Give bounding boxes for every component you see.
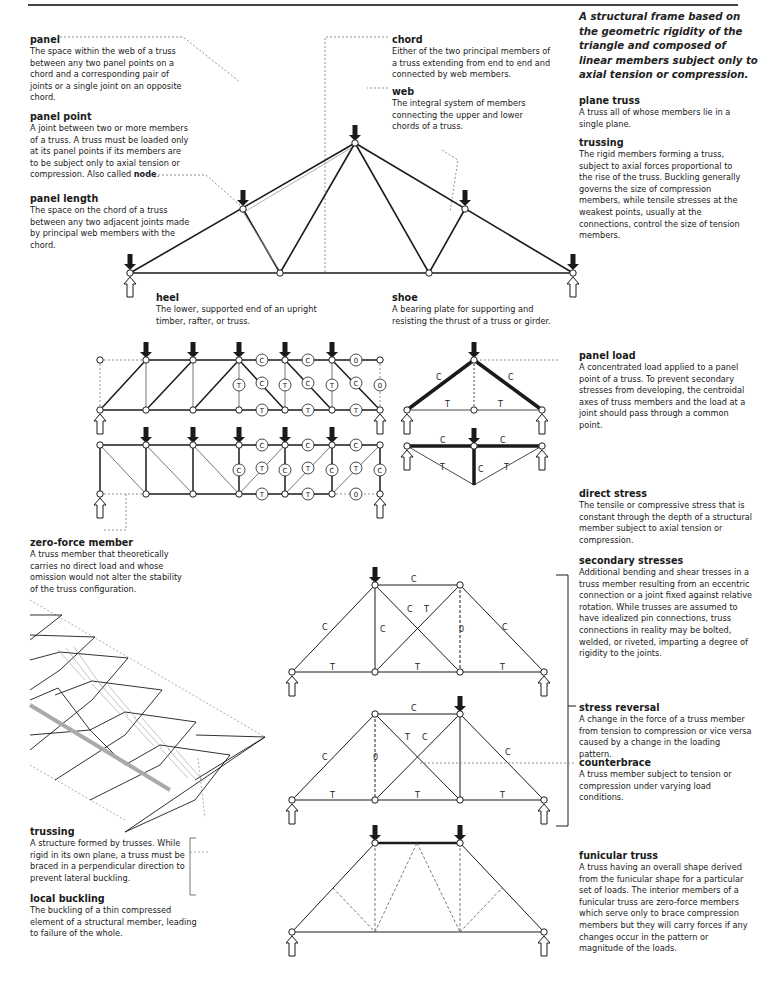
svg-text:T: T <box>259 491 265 499</box>
svg-text:T: T <box>499 663 505 672</box>
svg-text:T: T <box>444 400 450 409</box>
svg-text:C: C <box>260 442 265 450</box>
svg-text:0: 0 <box>354 491 358 499</box>
svg-text:C: C <box>330 467 335 475</box>
main-pitched-truss <box>124 125 579 297</box>
svg-text:T: T <box>305 465 311 473</box>
svg-text:T: T <box>329 663 335 672</box>
svg-text:T: T <box>497 400 503 409</box>
svg-text:0: 0 <box>354 357 358 365</box>
svg-text:C: C <box>306 380 311 388</box>
svg-text:C: C <box>322 753 328 762</box>
svg-text:T: T <box>439 463 445 472</box>
svg-text:C: C <box>500 436 506 445</box>
svg-text:C: C <box>378 467 383 475</box>
flat-truss-lower: C C C C T C T C T C T T 0 <box>94 427 386 530</box>
svg-text:C: C <box>306 357 311 365</box>
svg-text:C: C <box>411 575 417 584</box>
stress-reversal-diagrams: CCCCTC0 TTT CCTCC0 TTT <box>286 567 576 826</box>
svg-text:C: C <box>440 436 446 445</box>
svg-text:T: T <box>414 663 420 672</box>
svg-text:T: T <box>503 463 509 472</box>
svg-text:T: T <box>236 382 242 390</box>
svg-text:T: T <box>259 465 265 473</box>
svg-text:C: C <box>436 373 442 382</box>
space-trussing-perspective <box>30 600 265 895</box>
svg-text:T: T <box>353 407 359 415</box>
svg-text:T: T <box>329 791 335 800</box>
svg-text:T: T <box>282 382 288 390</box>
svg-text:T: T <box>423 605 429 614</box>
svg-text:C: C <box>422 733 428 742</box>
svg-text:0: 0 <box>459 625 464 634</box>
svg-text:C: C <box>354 380 359 388</box>
svg-text:0: 0 <box>378 382 382 390</box>
svg-text:C: C <box>354 442 359 450</box>
svg-text:C: C <box>411 704 417 713</box>
svg-text:C: C <box>322 623 328 632</box>
funicular-truss-diagram <box>286 825 550 956</box>
svg-text:C: C <box>260 357 265 365</box>
svg-text:T: T <box>259 407 265 415</box>
svg-text:T: T <box>305 407 311 415</box>
svg-text:C: C <box>237 467 242 475</box>
svg-text:T: T <box>404 733 410 742</box>
svg-text:C: C <box>508 373 514 382</box>
flat-truss-upper: C C 0 T C T C T C 0 T T T <box>94 342 386 434</box>
svg-text:T: T <box>305 491 311 499</box>
svg-text:C: C <box>306 442 311 450</box>
svg-text:T: T <box>499 791 505 800</box>
truss-diagrams: C C 0 T C T C T C 0 T T T <box>0 0 766 997</box>
svg-text:T: T <box>414 791 420 800</box>
panel-load-diagrams: CC TT CC C TT <box>401 342 560 485</box>
svg-text:C: C <box>407 605 413 614</box>
svg-text:C: C <box>505 748 511 757</box>
svg-text:C: C <box>502 623 508 632</box>
svg-text:0: 0 <box>373 753 378 762</box>
svg-text:T: T <box>329 382 335 390</box>
svg-text:C: C <box>260 380 265 388</box>
svg-text:C: C <box>283 467 288 475</box>
svg-text:T: T <box>353 465 359 473</box>
svg-text:C: C <box>478 465 484 474</box>
svg-text:C: C <box>380 625 386 634</box>
